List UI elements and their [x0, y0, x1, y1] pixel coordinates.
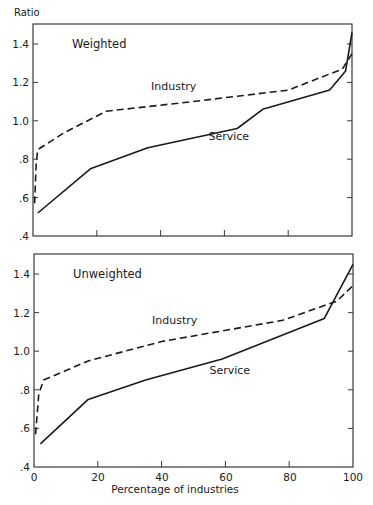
x-axis-label: Percentage of industries [111, 483, 239, 495]
y-tick-label: .4 [20, 461, 30, 473]
y-tick-label: .6 [19, 192, 29, 204]
series-label-service: Service [209, 364, 250, 377]
series-line-industry [35, 54, 352, 204]
series-line-industry [36, 286, 353, 435]
series-label-industry: Industry [152, 314, 198, 327]
series-label-service: Service [208, 130, 249, 143]
y-tick-label: 1.2 [13, 307, 30, 319]
y-tick-label: .4 [19, 230, 29, 242]
y-tick-label: 1.2 [12, 76, 29, 88]
y-tick-label: .8 [19, 153, 29, 165]
y-tick-label: 1.0 [13, 345, 30, 357]
x-tick-label: 60 [219, 471, 232, 483]
x-tick-label: 20 [91, 471, 104, 483]
series-line-service [38, 33, 352, 214]
y-tick-label: 1.0 [12, 115, 29, 127]
y-tick-label: .6 [20, 422, 30, 434]
y-tick-label: .8 [20, 384, 30, 396]
panel-title: Weighted [72, 37, 126, 51]
panel-weighted: .4.6.81.01.21.4WeightedIndustryService [12, 24, 352, 242]
x-tick-labels: 0 20 40 60 80 100 [31, 471, 363, 483]
x-tick-label: 80 [283, 471, 296, 483]
figure: Ratio .4.6.81.01.21.4WeightedIndustrySer… [0, 0, 373, 505]
x-tick-label: 100 [343, 471, 363, 483]
x-tick-label: 0 [31, 471, 38, 483]
x-tick-label: 40 [155, 471, 168, 483]
panel-title: Unweighted [73, 267, 142, 281]
series-line-service [40, 264, 353, 443]
y-tick-label: 1.4 [12, 38, 29, 50]
series-label-industry: Industry [151, 80, 197, 93]
y-axis-label: Ratio [14, 7, 40, 18]
panel-unweighted: .4.6.81.01.21.4UnweightedIndustryService [13, 254, 353, 473]
plot-frame [33, 24, 352, 236]
y-tick-label: 1.4 [13, 268, 30, 280]
plot-frame [34, 254, 353, 467]
